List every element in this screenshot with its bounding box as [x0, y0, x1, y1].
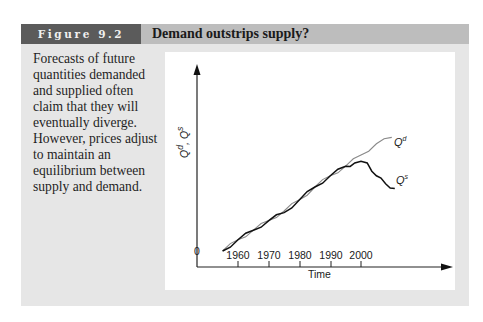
x-tick-1970: 1970 — [257, 249, 280, 261]
supply-line — [223, 161, 395, 251]
x-tick-1980: 1980 — [288, 249, 311, 261]
chart-area: 0 1960 1970 1980 1990 2000 Time Qd, Qs Q… — [165, 52, 455, 290]
demand-line — [223, 137, 392, 251]
origin-label: 0 — [194, 245, 200, 257]
figure-header-bar: Figure 9.2 Demand outstrips supply? — [21, 24, 469, 44]
figure-title: Demand outstrips supply? — [152, 24, 309, 44]
supply-series-label: Qs — [396, 173, 408, 186]
x-tick-2000: 2000 — [349, 249, 372, 261]
x-tick-1990: 1990 — [319, 249, 342, 261]
figure-caption: Forecasts of future quantities demanded … — [33, 51, 161, 195]
y-axis-label: Qd, Qs — [175, 127, 190, 158]
demand-series-label: Qd — [394, 135, 406, 148]
y-axis-arrow-icon — [194, 64, 201, 75]
x-axis-label: Time — [308, 268, 331, 280]
figure-number-label: Figure 9.2 — [21, 24, 141, 44]
x-tick-1960: 1960 — [226, 249, 249, 261]
x-axis-arrow-icon — [441, 264, 453, 271]
figure-panel: Figure 9.2 Demand outstrips supply? Fore… — [21, 24, 469, 306]
x-axis-ticks — [238, 261, 361, 267]
